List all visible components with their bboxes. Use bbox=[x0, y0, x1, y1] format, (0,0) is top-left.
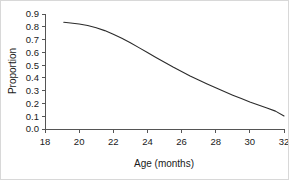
y-tick-label: 0.2 bbox=[26, 98, 39, 109]
y-tick-label: 0.5 bbox=[26, 60, 39, 71]
y-tick-label: 0.8 bbox=[26, 21, 39, 32]
y-tick-label: 0.4 bbox=[26, 72, 39, 83]
y-axis: 0.00.10.20.30.40.50.60.70.80.9 Proportio… bbox=[7, 8, 45, 134]
x-tick-label: 24 bbox=[142, 136, 153, 147]
line-chart: 0.00.10.20.30.40.50.60.70.80.9 Proportio… bbox=[1, 1, 289, 180]
y-tick-label: 0.3 bbox=[26, 85, 39, 96]
x-tick-labels: 1820222426283032 bbox=[40, 136, 289, 147]
y-tick-label: 0.6 bbox=[26, 47, 39, 58]
x-axis: 1820222426283032 Age (months) bbox=[40, 129, 289, 169]
x-tick-label: 18 bbox=[40, 136, 51, 147]
chart-figure: 0.00.10.20.30.40.50.60.70.80.9 Proportio… bbox=[0, 0, 289, 180]
x-tick-label: 28 bbox=[210, 136, 221, 147]
x-tick-label: 32 bbox=[279, 136, 289, 147]
x-tick-label: 22 bbox=[108, 136, 119, 147]
y-tick-label: 0.7 bbox=[26, 34, 39, 45]
x-axis-title: Age (months) bbox=[134, 158, 194, 169]
y-tick-label: 0.0 bbox=[26, 123, 39, 134]
y-tick-label: 0.1 bbox=[26, 111, 39, 122]
x-tick-label: 26 bbox=[176, 136, 187, 147]
y-tick-labels: 0.00.10.20.30.40.50.60.70.80.9 bbox=[26, 8, 39, 134]
data-series-line bbox=[64, 22, 284, 116]
y-tick-label: 0.9 bbox=[26, 8, 39, 19]
y-axis-title: Proportion bbox=[7, 48, 18, 94]
x-tick-marks bbox=[45, 129, 284, 133]
x-tick-label: 30 bbox=[245, 136, 256, 147]
x-tick-label: 20 bbox=[74, 136, 85, 147]
plot-area bbox=[64, 22, 284, 116]
